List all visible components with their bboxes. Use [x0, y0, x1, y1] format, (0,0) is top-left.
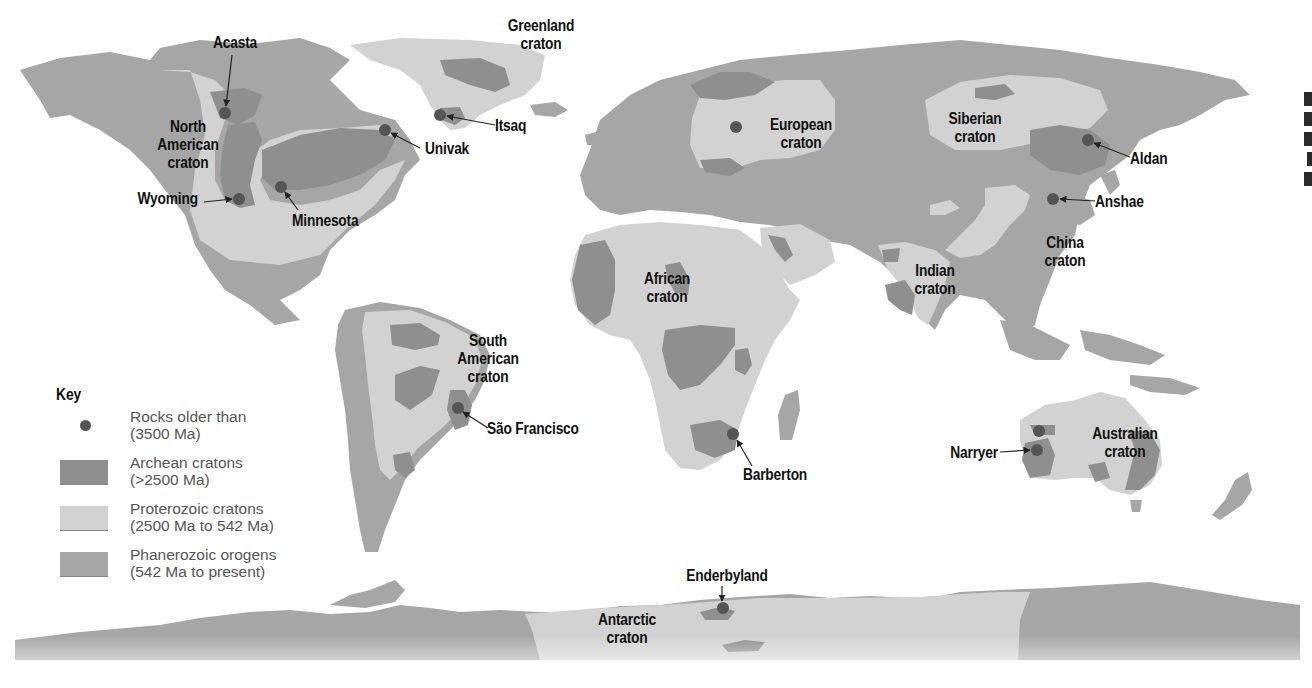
legend-item-proterozoic: Proterozoic cratons (2500 Ma to 542 Ma): [56, 502, 296, 548]
label-line: African: [628, 270, 705, 288]
map-legend: Key Rocks older than (3500 Ma) Archean c…: [56, 386, 296, 594]
legend-item-text: Rocks older than (3500 Ma): [130, 408, 246, 442]
legend-line: Rocks older than: [130, 408, 246, 425]
legend-item-archean: Archean cratons (>2500 Ma): [56, 456, 296, 502]
label-line: European: [762, 116, 839, 134]
legend-item-old-rocks: Rocks older than (3500 Ma): [56, 410, 296, 456]
label-site-narryer: Narryer: [940, 444, 998, 462]
edge-mark: [1304, 132, 1312, 146]
site-dot-univak[interactable]: [379, 124, 391, 136]
label-indian-craton: Indian craton: [905, 262, 965, 298]
legend-title: Key: [56, 386, 262, 404]
label-line: North: [154, 118, 223, 136]
legend-item-text: Archean cratons (>2500 Ma): [130, 454, 243, 488]
label-site-minnesota: Minnesota: [292, 212, 378, 230]
site-dot-european[interactable]: [730, 121, 742, 133]
label-australian-craton: Australian craton: [1082, 425, 1168, 461]
label-line: Australian: [1082, 425, 1168, 443]
edge-mark: [1304, 112, 1312, 126]
site-dot-narryer-north[interactable]: [1033, 425, 1045, 437]
africa-landmass: [570, 222, 800, 470]
label-site-barberton: Barberton: [736, 466, 813, 484]
label-site-anshae: Anshae: [1095, 193, 1155, 211]
label-line: craton: [454, 368, 523, 386]
edge-mark: [1304, 172, 1312, 186]
label-siberian-craton: Siberian craton: [936, 110, 1013, 146]
label-line: craton: [628, 288, 705, 306]
label-european-craton: European craton: [762, 116, 839, 152]
proterozoic-swatch-icon: [60, 506, 108, 531]
edge-mark: [1307, 152, 1312, 166]
label-line: craton: [1082, 443, 1168, 461]
site-dot-anshae[interactable]: [1047, 193, 1059, 205]
legend-item-text: Phanerozoic orogens (542 Ma to present): [130, 546, 277, 580]
label-south-american-craton: South American craton: [454, 332, 523, 386]
legend-line: Archean cratons: [130, 454, 243, 471]
label-line: Antarctic: [588, 611, 665, 629]
label-line: craton: [1035, 252, 1095, 270]
site-dot-minnesota[interactable]: [275, 181, 287, 193]
label-line: craton: [502, 35, 579, 53]
label-line: craton: [588, 629, 665, 647]
legend-item-phanerozoic: Phanerozoic orogens (542 Ma to present): [56, 548, 296, 594]
site-dot-wyoming[interactable]: [233, 193, 245, 205]
label-african-craton: African craton: [628, 270, 705, 306]
archean-swatch-icon: [60, 460, 108, 485]
legend-line: (542 Ma to present): [130, 563, 277, 580]
phanerozoic-swatch-icon: [60, 552, 108, 577]
legend-line: (>2500 Ma): [130, 471, 243, 488]
site-dot-enderbyland[interactable]: [717, 602, 729, 614]
label-line: American: [154, 136, 223, 154]
label-site-univak: Univak: [425, 140, 485, 158]
label-site-wyoming: Wyoming: [122, 190, 198, 208]
site-dot-aldan[interactable]: [1082, 134, 1094, 146]
label-antarctic-craton: Antarctic craton: [588, 611, 665, 647]
legend-item-text: Proterozoic cratons (2500 Ma to 542 Ma): [130, 500, 274, 534]
edge-mark: [1304, 92, 1312, 106]
label-site-enderbyland: Enderbyland: [686, 567, 763, 585]
label-site-sao-francisco: São Francisco: [487, 420, 599, 438]
legend-line: Proterozoic cratons: [130, 500, 274, 517]
label-line: Greenland: [502, 17, 579, 35]
label-line: craton: [762, 134, 839, 152]
label-line: craton: [936, 128, 1013, 146]
label-line: China: [1035, 234, 1095, 252]
label-line: craton: [154, 154, 223, 172]
site-dot-itsaq[interactable]: [434, 109, 446, 121]
label-line: Siberian: [936, 110, 1013, 128]
north-america-landmass: [20, 38, 420, 325]
label-line: American: [454, 350, 523, 368]
site-dot-sao-francisco[interactable]: [452, 402, 464, 414]
old-rock-dot-icon: [80, 420, 91, 431]
label-line: craton: [905, 280, 965, 298]
label-site-acasta: Acasta: [205, 34, 265, 52]
label-line: Indian: [905, 262, 965, 280]
legend-line: Phanerozoic orogens: [130, 546, 277, 563]
label-china-craton: China craton: [1035, 234, 1095, 270]
label-site-itsaq: Itsaq: [495, 117, 547, 135]
label-site-aldan: Aldan: [1130, 150, 1182, 168]
legend-line: (3500 Ma): [130, 425, 246, 442]
legend-line: (2500 Ma to 542 Ma): [130, 517, 274, 534]
site-dot-narryer[interactable]: [1031, 444, 1043, 456]
label-greenland-craton: Greenland craton: [502, 17, 579, 53]
label-line: South: [454, 332, 523, 350]
label-north-american-craton: North American craton: [154, 118, 223, 172]
site-dot-barberton[interactable]: [727, 428, 739, 440]
